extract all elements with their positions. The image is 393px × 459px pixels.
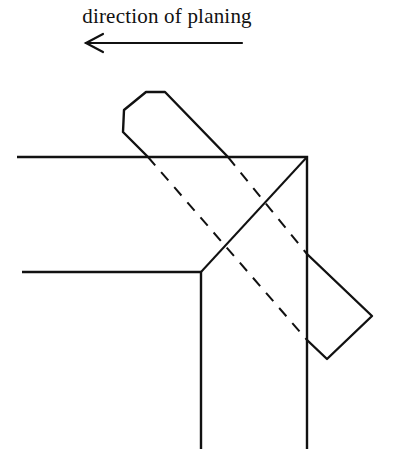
outer-frame-edge bbox=[17, 157, 307, 449]
plane-sole-hidden-lines bbox=[148, 157, 307, 340]
inner-frame-edge bbox=[22, 272, 201, 449]
left-arrow-icon bbox=[86, 34, 242, 52]
plane-outline bbox=[123, 92, 372, 359]
miter-joint-line bbox=[201, 157, 307, 272]
miter-planing-diagram bbox=[0, 0, 393, 459]
